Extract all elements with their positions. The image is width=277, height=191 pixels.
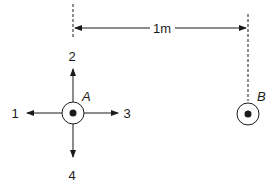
direction-label-1: 1	[11, 106, 18, 121]
point-b	[237, 103, 259, 125]
point-b-label: B	[257, 89, 266, 104]
point-a	[62, 102, 84, 124]
direction-label-3: 3	[123, 106, 130, 121]
point-b-dot-icon	[245, 111, 252, 118]
diagram-canvas: 1m A 1 2 3 4 B	[0, 0, 277, 191]
point-a-dot-icon	[70, 110, 77, 117]
dimension-label: 1m	[153, 21, 171, 36]
direction-label-4: 4	[68, 168, 75, 183]
direction-label-2: 2	[68, 49, 75, 64]
point-a-label: A	[81, 89, 91, 104]
